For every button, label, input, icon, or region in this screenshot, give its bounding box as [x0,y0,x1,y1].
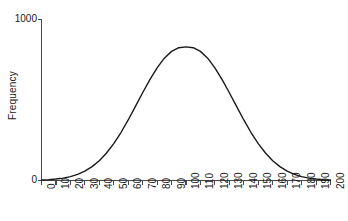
chart-figure: Frequency 01000 010203040506070809010011… [0,0,348,221]
chart-plot-area [0,0,348,221]
data-curve-group [42,47,331,180]
axes-group [38,20,331,185]
data-series-line [42,47,331,180]
